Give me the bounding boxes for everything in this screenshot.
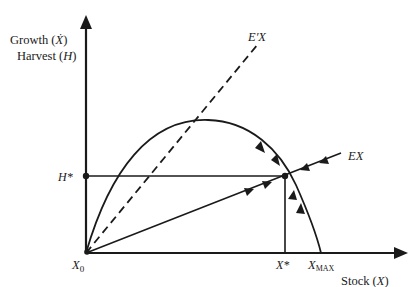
arrow-icon (255, 141, 265, 153)
x-axis (86, 247, 408, 259)
x-axis-label-stock: Stock (X) (341, 274, 389, 287)
h-star-label: H* (57, 170, 73, 184)
origin-label: X0 (71, 258, 85, 274)
x-star-label: X* (275, 258, 289, 272)
arrow-icon (262, 181, 272, 189)
arrow-icon (288, 190, 297, 200)
y-axis-label-harvest: Harvest (H) (17, 49, 76, 63)
arrow-icon (300, 163, 310, 171)
y-axis (80, 15, 92, 254)
solid-line-label: EX (347, 149, 365, 163)
x-max-label: XMAX (307, 258, 335, 273)
y-axis-label-growth: Growth (Ẋ) (10, 33, 67, 47)
effort-line-arrows-in (244, 181, 272, 196)
arrow-icon (244, 188, 254, 196)
h-star-dot (83, 173, 89, 179)
y-axis-arrow-icon (80, 15, 92, 29)
growth-harvest-diagram: Growth (Ẋ) Harvest (H) Stock (X) E′X EX … (0, 0, 418, 287)
effort-line-dashed (86, 44, 258, 253)
dashed-line-label: E′X (247, 30, 267, 44)
x-axis-arrow-icon (394, 247, 408, 259)
origin-dot (84, 249, 90, 255)
arrow-icon (319, 156, 329, 164)
equilibrium-dot (282, 173, 288, 179)
